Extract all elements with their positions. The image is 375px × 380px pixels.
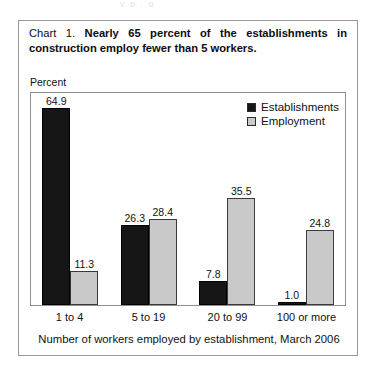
bar-group: 64.911.3 [31,93,110,305]
bar-value-label: 35.5 [231,185,251,197]
bar-groups: 64.911.326.328.47.835.51.024.8 [31,93,345,305]
bar-value-label: 24.8 [310,217,330,229]
bar-rect [149,219,177,305]
bar-group: 1.024.8 [267,93,346,305]
bar-group: 26.328.4 [110,93,189,305]
x-axis-tick-label: 1 to 4 [30,311,109,323]
bar-establishments: 1.0 [278,93,306,305]
bar-rect [199,281,227,305]
x-axis-tick-label: 20 to 99 [188,311,267,323]
x-axis-tick-label: 100 or more [267,311,346,323]
bar-rect [70,271,98,305]
y-axis-label: Percent [30,76,66,88]
bar-employment: 11.3 [70,93,98,305]
bar-employment: 24.8 [306,93,334,305]
scan-artifact-text: y p , g [120,0,300,7]
bar-establishments: 26.3 [121,93,149,305]
bar-rect [306,230,334,305]
bar-value-label: 7.8 [206,268,221,280]
x-axis-tick-label: 5 to 19 [109,311,188,323]
chart-caption: Chart 1. Nearly 65 percent of the establ… [29,26,347,55]
bar-value-label: 64.9 [46,95,66,107]
chart-number-label: Chart 1. [29,27,75,39]
bar-rect [42,108,70,305]
x-axis-caption: Number of workers employed by establishm… [28,333,350,345]
bar-value-label: 28.4 [153,206,173,218]
bar-rect [278,302,306,305]
bar-rect [227,198,255,306]
chart-title-text: Nearly 65 percent of the establishments … [29,27,347,54]
bar-value-label: 26.3 [125,212,145,224]
bar-value-label: 11.3 [74,258,94,270]
bar-employment: 28.4 [149,93,177,305]
bar-group: 7.835.5 [188,93,267,305]
chart-container: Chart 1. Nearly 65 percent of the establ… [18,20,358,356]
bar-establishments: 7.8 [199,93,227,305]
bar-employment: 35.5 [227,93,255,305]
bar-value-label: 1.0 [284,289,299,301]
plot-area: Establishments Employment 64.911.326.328… [30,92,346,306]
bar-establishments: 64.9 [42,93,70,305]
x-axis-category-labels: 1 to 45 to 1920 to 99100 or more [30,311,346,323]
bar-rect [121,225,149,305]
